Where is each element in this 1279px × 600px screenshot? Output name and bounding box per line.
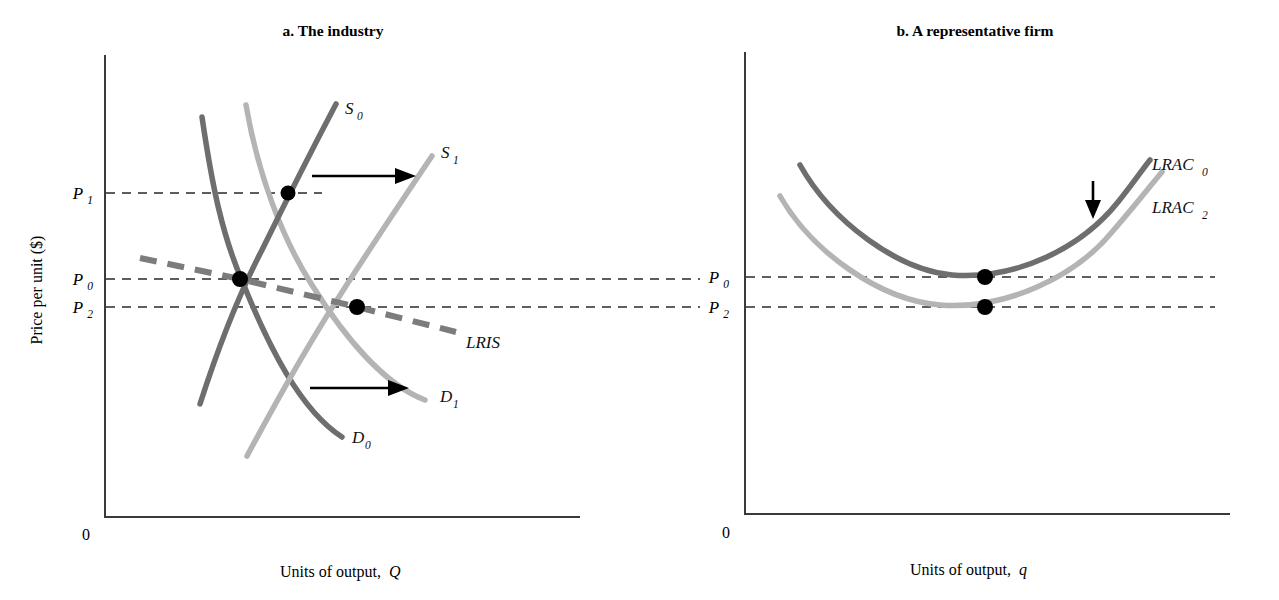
lrac-shift-arrow	[1085, 181, 1101, 219]
curve-label-d1: D 1	[439, 387, 459, 410]
curve-label-lrac2-sub: 2	[1202, 209, 1208, 221]
curve-lrac-2	[780, 172, 1162, 306]
panel-b-representative-firm: b. A representative firm 0 P 0 P 2	[708, 22, 1230, 579]
panel-a-y-axis-label: Price per unit ($)	[28, 236, 46, 345]
panel-b-price-label-2-base: P	[708, 298, 719, 317]
curve-label-lrac0-base: LRAC	[1151, 155, 1194, 174]
curve-label-s0: S 0	[345, 99, 363, 122]
panel-a-axes	[105, 55, 580, 517]
panel-b-x-axis-label: Units of output, q	[910, 561, 1027, 579]
curve-demand-1	[246, 105, 425, 400]
equilibrium-dot-p0	[232, 271, 248, 287]
price-label-2-sub: 2	[87, 308, 93, 320]
panel-b-origin-label: 0	[722, 524, 730, 541]
curve-label-lris: LRIS	[465, 333, 501, 352]
curve-lris	[140, 258, 456, 332]
curve-label-lrac2: LRAC 2	[1151, 198, 1208, 221]
economics-figure: a. The industry Price per unit ($) 0 P 1…	[0, 0, 1279, 600]
panel-a-x-axis-label-var: Q	[389, 563, 401, 580]
curve-label-d0-base: D	[351, 428, 365, 447]
panel-b-x-axis-label-var: q	[1019, 561, 1027, 579]
panel-b-price-label-2-sub: 2	[723, 308, 729, 320]
curve-label-s1-sub: 1	[453, 154, 459, 166]
equilibrium-dot-p1	[281, 186, 296, 201]
curve-lrac-0	[800, 160, 1150, 276]
panel-b-price-label-0-base: P	[708, 268, 719, 287]
min-dot-lrac-2	[977, 299, 993, 315]
price-label-0-sub: 0	[87, 280, 93, 292]
curve-label-s0-base: S	[345, 99, 354, 118]
curve-label-d0: D 0	[351, 428, 371, 451]
curve-label-s1: S 1	[441, 143, 459, 166]
panel-a-price-label-1: P 1	[72, 184, 93, 206]
curve-label-lrac0-sub: 0	[1202, 166, 1208, 178]
curve-label-d1-base: D	[439, 387, 453, 406]
panel-b-price-label-0-sub: 0	[723, 278, 729, 290]
demand-shift-arrow	[310, 380, 409, 396]
panel-b-price-label-0: P 0	[708, 268, 729, 290]
panel-a-title: a. The industry	[283, 22, 384, 39]
supply-shift-arrow	[312, 168, 416, 184]
curve-label-lrac2-base: LRAC	[1151, 198, 1194, 217]
curve-label-d1-sub: 1	[453, 398, 459, 410]
panel-a-price-label-2: P 2	[72, 298, 93, 320]
min-dot-lrac-0	[977, 269, 993, 285]
price-label-1-base: P	[72, 184, 83, 203]
price-label-2-base: P	[72, 298, 83, 317]
panel-b-price-label-2: P 2	[708, 298, 729, 320]
curve-supply-0	[200, 104, 336, 404]
panel-a-industry: a. The industry Price per unit ($) 0 P 1…	[28, 22, 700, 581]
panel-a-origin-label: 0	[82, 526, 90, 543]
panel-a-x-axis-label: Units of output, Q	[280, 563, 401, 581]
lrac-shift-arrow-head	[1085, 200, 1101, 219]
panel-a-x-axis-label-text: Units of output,	[280, 563, 381, 581]
curve-label-d0-sub: 0	[365, 439, 371, 451]
panel-a-price-label-0: P 0	[72, 270, 93, 292]
panel-b-title: b. A representative firm	[897, 22, 1054, 39]
price-label-0-base: P	[72, 270, 83, 289]
equilibrium-dot-p2	[349, 299, 365, 315]
curve-supply-1	[247, 156, 432, 456]
curve-label-s0-sub: 0	[357, 110, 363, 122]
panel-b-x-axis-label-text: Units of output,	[910, 561, 1011, 579]
price-label-1-sub: 1	[87, 194, 93, 206]
curve-label-s1-base: S	[441, 143, 450, 162]
figure-canvas: a. The industry Price per unit ($) 0 P 1…	[0, 0, 1279, 600]
